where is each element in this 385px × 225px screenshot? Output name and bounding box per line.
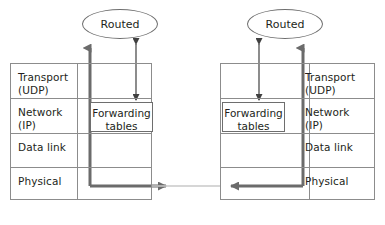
right-layer-transport: Transport (UDP) (221, 64, 374, 99)
right-layer-transport-label: Transport (UDP) (305, 64, 367, 96)
diagram-canvas: Transport (UDP) Network (IP) Data link P… (0, 0, 385, 225)
left-layer-network-label: Network (IP) (18, 99, 63, 131)
left-layer-transport: Transport (UDP) (11, 64, 151, 99)
left-layer-datalink-label: Data link (18, 134, 66, 154)
left-layer-physical-label: Physical (18, 168, 62, 188)
right-layer-network-label: Network (IP) (305, 99, 367, 131)
left-forwarding-tables-box: Forwarding tables (90, 102, 153, 132)
right-layer-physical-label: Physical (305, 168, 367, 188)
left-layer-transport-label: Transport (UDP) (18, 64, 68, 96)
right-forwarding-tables-box: Forwarding tables (222, 102, 285, 132)
right-layer-physical: Physical (221, 168, 374, 201)
left-routed-ellipse: Routed (82, 9, 158, 39)
right-routed-ellipse: Routed (247, 9, 323, 39)
left-layer-datalink: Data link (11, 134, 151, 168)
right-layer-datalink-label: Data link (305, 134, 367, 154)
right-layer-datalink: Data link (221, 134, 374, 168)
left-layer-physical: Physical (11, 168, 151, 201)
